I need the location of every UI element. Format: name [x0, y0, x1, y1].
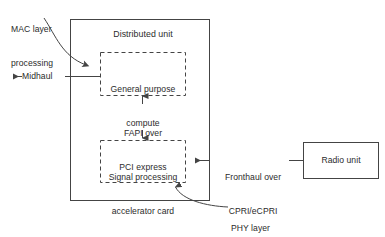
radio-unit-label: Radio unit: [303, 155, 379, 166]
signal-processing-accelerator-card-label: Signal processing accelerator card: [99, 150, 187, 237]
midhaul-label: Midhaul: [22, 71, 52, 82]
mac-layer-processing-line1: MAC layer: [11, 24, 53, 35]
diagram-vector-layer: [0, 0, 385, 237]
signal-processing-line2: accelerator card: [99, 206, 187, 217]
distributed-unit-title: Distributed unit: [100, 29, 186, 40]
phy-layer-processing-line1: PHY layer: [231, 223, 273, 234]
fronthaul-label-line1: Fronthaul over: [214, 172, 292, 183]
diagram-canvas: MAC layer processing Midhaul Distributed…: [0, 0, 385, 237]
phy-layer-processing-callout: PHY layer processing: [231, 201, 273, 237]
fapi-label-line1: FAPI over: [100, 128, 186, 139]
mac-layer-processing-line2: processing: [11, 58, 53, 69]
general-purpose-compute-line1: General purpose: [100, 84, 186, 95]
signal-processing-line1: Signal processing: [99, 172, 187, 183]
